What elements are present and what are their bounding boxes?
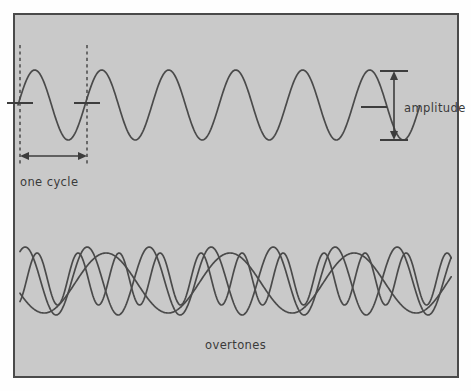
overtones-label: overtones [205, 338, 266, 352]
diagram-frame [14, 14, 458, 377]
waveform-diagram-svg: one cycle amplitude overtones [0, 0, 471, 391]
amplitude-label: amplitude [404, 101, 466, 115]
waveform-figure: one cycle amplitude overtones [0, 0, 471, 391]
one-cycle-label: one cycle [20, 175, 78, 189]
